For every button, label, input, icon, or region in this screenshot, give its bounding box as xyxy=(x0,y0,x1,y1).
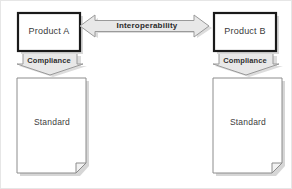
compliance-b-arrow[interactable] xyxy=(213,53,279,75)
interoperability-arrow[interactable] xyxy=(80,15,209,37)
product-a-box[interactable] xyxy=(18,13,80,51)
diagram-canvas: Product A Product B Interoperability Com… xyxy=(0,0,292,189)
standard-a-document[interactable] xyxy=(17,78,86,173)
standard-b-document[interactable] xyxy=(213,78,282,173)
compliance-a-arrow[interactable] xyxy=(17,53,83,75)
diagram-graphics xyxy=(1,1,292,189)
product-b-box[interactable] xyxy=(214,13,276,51)
